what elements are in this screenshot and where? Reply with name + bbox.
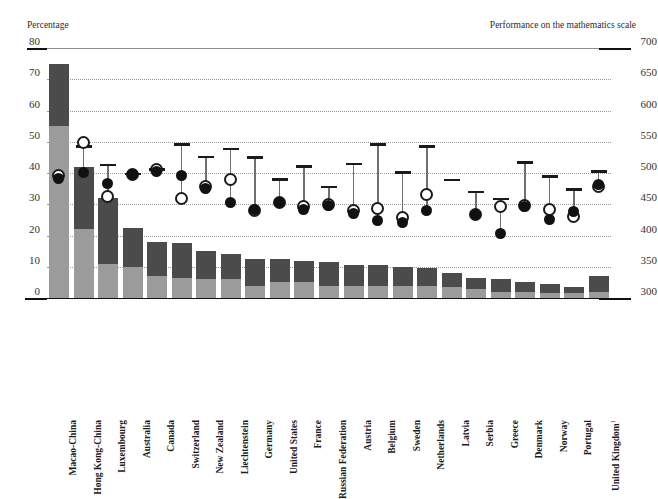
marker-group	[368, 48, 388, 298]
first-generation-solid-dot-marker	[372, 215, 383, 226]
first-generation-solid-dot-marker	[176, 170, 187, 181]
first-generation-solid-dot-marker	[568, 206, 579, 217]
country-label: New Zealand	[210, 420, 230, 474]
country-label: Denmark	[529, 420, 549, 459]
right-tick-400: 400	[617, 224, 657, 235]
left-tick-50: 50	[8, 130, 40, 141]
axis-emphasis-rule	[25, 298, 47, 300]
right-tick-600: 600	[617, 99, 657, 110]
right-tick-450: 450	[617, 192, 657, 203]
marker-group	[196, 48, 216, 298]
first-generation-solid-dot-marker	[78, 167, 89, 178]
right-tick-500: 500	[617, 161, 657, 172]
second-generation-open-circle-marker	[371, 202, 384, 215]
country-label: Netherlands	[431, 420, 451, 470]
native-students-cap-marker	[395, 171, 411, 174]
marker-group	[147, 48, 167, 298]
first-generation-solid-dot-marker	[102, 178, 113, 189]
native-students-cap-marker	[517, 161, 533, 164]
country-label: Belgium	[382, 420, 402, 454]
second-generation-open-circle-marker	[77, 136, 90, 149]
left-tick-70: 70	[8, 67, 40, 78]
marker-group	[589, 48, 609, 298]
marker-group	[98, 48, 118, 298]
native-students-cap-marker	[370, 143, 386, 146]
first-generation-solid-dot-marker	[593, 179, 604, 190]
marker-group	[344, 48, 364, 298]
marker-group	[74, 48, 94, 298]
country-label: Sweden	[407, 420, 427, 451]
right-tick-650: 650	[617, 67, 657, 78]
axis-emphasis-rule	[27, 48, 47, 50]
second-generation-open-circle-marker	[420, 188, 433, 201]
right-tick-550: 550	[617, 130, 657, 141]
first-generation-solid-dot-marker	[53, 173, 64, 184]
category-labels: Macao-ChinaHong Kong-ChinaLuxembourgAust…	[47, 302, 611, 422]
marker-group	[564, 48, 584, 298]
country-label: Canada	[161, 420, 181, 452]
second-generation-open-circle-marker	[175, 192, 188, 205]
country-label: Hong Kong-China	[88, 420, 108, 495]
marker-group	[49, 48, 69, 298]
marker-group	[540, 48, 560, 298]
marker-group	[172, 48, 192, 298]
marker-group	[442, 48, 462, 298]
second-generation-open-circle-marker	[224, 173, 237, 186]
native-students-cap-marker	[591, 170, 607, 173]
country-label: Latvia	[456, 420, 476, 446]
first-generation-solid-dot-marker	[298, 204, 309, 215]
native-students-cap-marker	[468, 191, 484, 194]
second-generation-open-circle-marker	[101, 190, 114, 203]
marker-group	[123, 48, 143, 298]
left-axis-caption: Percentage	[27, 20, 69, 30]
first-generation-solid-dot-marker	[544, 214, 555, 225]
first-generation-solid-dot-marker	[151, 166, 162, 177]
country-label: Liechtenstein	[235, 420, 255, 474]
left-tick-60: 60	[8, 99, 40, 110]
country-label: United States	[284, 420, 304, 474]
country-label: France	[308, 420, 328, 449]
right-tick-700: 700	[617, 36, 657, 47]
first-generation-solid-dot-marker	[421, 205, 432, 216]
first-generation-solid-dot-marker	[519, 201, 530, 212]
country-label: Switzerland	[186, 420, 206, 469]
left-tick-40: 40	[8, 161, 40, 172]
country-label: Portugal	[578, 420, 598, 455]
country-label: Austria	[358, 420, 378, 451]
marker-group	[245, 48, 265, 298]
right-tick-350: 350	[617, 255, 657, 266]
native-students-cap-marker	[247, 156, 263, 159]
first-generation-solid-dot-marker	[127, 169, 138, 180]
right-axis-caption: Performance on the mathematics scale	[490, 20, 636, 30]
plot-area	[47, 48, 611, 298]
country-label: Australia	[137, 420, 157, 458]
left-tick-30: 30	[8, 192, 40, 203]
country-label: Luxembourg	[112, 420, 132, 473]
right-tick-300: 300	[617, 286, 657, 297]
native-students-cap-marker	[321, 186, 337, 189]
country-label: Germany	[259, 420, 279, 459]
marker-group	[319, 48, 339, 298]
left-tick-0: 0	[8, 286, 40, 297]
gridline-0	[47, 298, 611, 299]
native-students-cap-marker	[346, 163, 362, 166]
native-students-cap-marker	[198, 156, 214, 159]
native-students-cap-marker	[444, 179, 460, 182]
first-generation-solid-dot-marker	[348, 208, 359, 219]
native-students-cap-marker	[174, 143, 190, 146]
country-label: Russian Federation	[333, 420, 353, 499]
native-students-cap-marker	[272, 178, 288, 181]
axis-emphasis-rule	[599, 48, 631, 50]
marker-group	[515, 48, 535, 298]
range-connector-line	[254, 157, 256, 210]
marker-group	[270, 48, 290, 298]
first-generation-solid-dot-marker	[200, 183, 211, 194]
marker-group	[393, 48, 413, 298]
first-generation-solid-dot-marker	[225, 197, 236, 208]
native-students-cap-marker	[100, 164, 116, 167]
marker-group	[417, 48, 437, 298]
native-students-cap-marker	[419, 145, 435, 148]
marker-group	[466, 48, 486, 298]
left-tick-20: 20	[8, 224, 40, 235]
